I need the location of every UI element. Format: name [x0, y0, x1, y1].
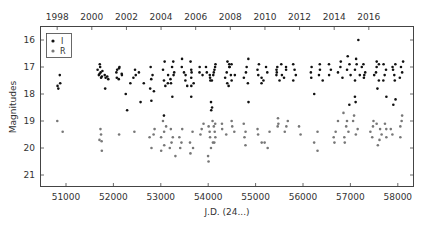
data-point-r: [384, 122, 387, 125]
data-point-i: [355, 58, 358, 61]
data-points: [56, 39, 404, 163]
y-tick-label: 18: [24, 89, 36, 99]
data-point-i: [167, 74, 170, 77]
data-point-i: [96, 68, 99, 71]
data-point-i: [382, 63, 385, 66]
data-point-i: [150, 99, 153, 102]
data-point-i: [186, 85, 189, 88]
data-point-r: [207, 125, 210, 128]
data-point-i: [198, 71, 201, 74]
x-tick-label: 52000: [99, 192, 128, 202]
plot-frame: [41, 27, 414, 187]
data-point-i: [107, 78, 110, 81]
data-point-i: [292, 79, 295, 82]
data-point-r: [213, 141, 216, 144]
data-point-i: [59, 82, 62, 85]
data-point-i: [275, 74, 278, 77]
data-point-r: [213, 125, 216, 128]
data-point-i: [189, 60, 192, 63]
data-point-r: [313, 141, 316, 144]
data-point-r: [211, 120, 214, 123]
data-point-r: [276, 125, 279, 128]
data-point-i: [213, 68, 216, 71]
data-point-i: [392, 104, 395, 107]
data-point-i: [209, 77, 212, 80]
data-point-i: [104, 77, 107, 80]
data-point-r: [372, 120, 375, 123]
data-point-i: [121, 74, 124, 77]
data-point-i: [400, 66, 403, 69]
data-point-r: [346, 120, 349, 123]
data-point-r: [380, 133, 383, 136]
data-point-i: [190, 71, 193, 74]
data-point-i: [224, 77, 227, 80]
data-point-i: [399, 77, 402, 80]
data-point-r: [332, 136, 335, 139]
data-point-i: [190, 85, 193, 88]
data-point-i: [214, 66, 217, 69]
data-point-i: [292, 63, 295, 66]
data-point-i: [373, 74, 376, 77]
data-point-r: [352, 120, 355, 123]
y-tick-label: 16: [24, 35, 36, 45]
data-point-i: [104, 87, 107, 90]
data-point-r: [400, 120, 403, 123]
y-tick-label: 21: [24, 170, 35, 180]
data-point-r: [277, 122, 280, 125]
data-point-r: [244, 131, 247, 134]
data-point-i: [339, 66, 342, 69]
data-point-i: [354, 68, 357, 71]
y-tick-label: 20: [24, 143, 36, 153]
data-point-r: [225, 133, 228, 136]
data-point-i: [57, 87, 60, 90]
data-point-i: [328, 63, 331, 66]
data-point-i: [149, 66, 152, 69]
data-point-i: [138, 71, 141, 74]
data-point-i: [256, 68, 259, 71]
data-point-i: [262, 79, 265, 82]
data-point-r: [285, 125, 288, 128]
data-point-i: [375, 66, 378, 69]
legend-marker-i: [51, 39, 54, 42]
data-point-i: [172, 60, 175, 63]
data-point-r: [277, 117, 280, 120]
data-point-r: [375, 122, 378, 125]
data-point-i: [285, 68, 288, 71]
data-point-i: [346, 55, 349, 58]
data-point-r: [160, 149, 163, 152]
data-point-i: [354, 101, 357, 104]
data-point-r: [343, 141, 346, 144]
data-point-r: [256, 128, 259, 131]
data-point-i: [245, 66, 248, 69]
data-point-i: [318, 74, 321, 77]
data-point-r: [347, 131, 350, 134]
data-point-i: [260, 82, 263, 85]
data-point-r: [168, 147, 171, 150]
top-tick-label: 2000: [80, 12, 103, 22]
data-point-r: [353, 114, 356, 117]
data-point-i: [116, 68, 119, 71]
data-point-i: [230, 63, 233, 66]
data-point-i: [257, 74, 260, 77]
data-point-i: [278, 79, 281, 82]
data-point-i: [205, 66, 208, 69]
data-point-r: [399, 136, 402, 139]
data-point-i: [360, 66, 363, 69]
data-point-r: [160, 136, 163, 139]
data-point-r: [174, 155, 177, 158]
data-point-i: [362, 63, 365, 66]
x-tick-label: 51000: [52, 192, 81, 202]
legend-box: [47, 34, 72, 58]
data-point-i: [132, 77, 135, 80]
data-point-i: [129, 82, 132, 85]
data-point-i: [230, 79, 233, 82]
data-point-i: [339, 60, 342, 63]
data-point-r: [355, 133, 358, 136]
data-point-r: [118, 133, 121, 136]
data-point-i: [375, 71, 378, 74]
data-point-r: [221, 128, 224, 131]
y-tick-label: 19: [24, 116, 36, 126]
data-point-i: [346, 68, 349, 71]
data-point-i: [283, 77, 286, 80]
data-point-i: [211, 106, 214, 109]
